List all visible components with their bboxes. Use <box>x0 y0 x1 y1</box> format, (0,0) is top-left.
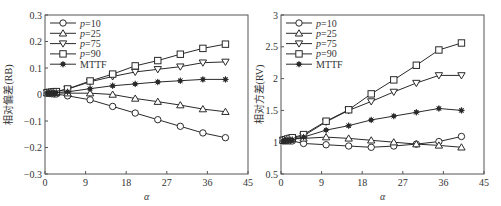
circle-marker <box>323 142 329 148</box>
y-tick-label: −0.1 <box>24 116 42 127</box>
circle-marker <box>60 20 66 26</box>
x-tick-label: 9 <box>319 177 324 188</box>
star-marker <box>222 76 228 82</box>
series-group <box>44 41 230 141</box>
star-marker <box>300 134 306 140</box>
circle-marker <box>458 133 464 139</box>
circle-marker <box>109 103 115 109</box>
circle-marker <box>222 134 228 140</box>
square-marker <box>345 107 351 113</box>
figure: 0918273645α−0.3−0.2−0.100.10.20.3相对偏差(RB… <box>0 0 501 206</box>
square-marker <box>413 62 419 68</box>
plot-frame <box>281 15 484 174</box>
x-tick-label: 27 <box>398 177 408 188</box>
circle-marker <box>132 110 138 116</box>
series-p-90 <box>44 41 229 96</box>
star-marker <box>64 89 70 95</box>
y-axis-label: 相对偏差(RB) <box>2 65 15 125</box>
x-tick-label: 18 <box>121 177 131 188</box>
relative-variance-chart: 0918273645α0.511.522.53相对方差(RV)p=10p=25p… <box>253 10 489 203</box>
x-tick-label: 0 <box>279 177 284 188</box>
y-tick-label: 0.1 <box>30 63 43 74</box>
circle-marker <box>87 97 93 103</box>
square-marker <box>200 45 206 51</box>
triangle-up-marker <box>322 134 329 140</box>
star-marker <box>109 83 115 89</box>
x-tick-label: 36 <box>438 177 448 188</box>
x-tick-label: 45 <box>243 177 253 188</box>
star-marker <box>436 105 442 111</box>
y-tick-label: 2.5 <box>266 41 279 52</box>
x-tick-label: 0 <box>43 177 48 188</box>
legend-label: MTTF <box>316 59 343 70</box>
square-marker <box>87 78 93 84</box>
star-marker <box>296 61 302 67</box>
star-marker <box>289 136 295 142</box>
y-axis: −0.3−0.2−0.100.10.20.3相对偏差(RB) <box>2 10 48 180</box>
x-axis: 0918273645α <box>279 171 490 202</box>
square-marker <box>222 41 228 47</box>
triangle-down-marker <box>413 80 420 86</box>
star-marker <box>391 113 397 119</box>
square-marker <box>436 47 442 53</box>
series-line <box>47 93 225 112</box>
y-tick-label: −0.2 <box>24 142 42 153</box>
square-marker <box>132 63 138 69</box>
square-marker <box>60 51 66 57</box>
y-tick-label: 2 <box>273 73 278 84</box>
star-marker <box>458 107 464 113</box>
star-marker <box>87 85 93 91</box>
star-marker <box>345 122 351 128</box>
star-marker <box>413 109 419 115</box>
star-marker <box>200 76 206 82</box>
star-marker <box>368 117 374 123</box>
series-p-90 <box>280 40 465 144</box>
square-marker <box>177 51 183 57</box>
legend: p=10p=25p=75p=90MTTF <box>50 18 107 70</box>
circle-marker <box>345 143 351 149</box>
star-marker <box>323 127 329 133</box>
relative-bias-chart: 0918273645α−0.3−0.2−0.100.10.20.3相对偏差(RB… <box>2 10 253 203</box>
y-tick-label: 1.5 <box>266 105 279 116</box>
triangle-down-marker <box>390 89 397 95</box>
star-marker <box>60 61 66 67</box>
circle-marker <box>200 130 206 136</box>
y-tick-label: 3 <box>273 10 278 21</box>
x-tick-label: 18 <box>357 177 367 188</box>
x-tick-label: 9 <box>83 177 88 188</box>
star-marker <box>177 78 183 84</box>
square-marker <box>155 57 161 63</box>
legend-label: MTTF <box>80 59 107 70</box>
x-tick-label: 36 <box>202 177 212 188</box>
y-tick-label: 1 <box>273 137 278 148</box>
circle-marker <box>155 116 161 122</box>
y-tick-label: 0.2 <box>30 36 43 47</box>
square-marker <box>391 77 397 83</box>
y-tick-label: 0 <box>37 89 42 100</box>
triangle-down-marker <box>368 99 375 105</box>
y-tick-label: −0.3 <box>24 169 42 180</box>
star-marker <box>132 81 138 87</box>
circle-marker <box>368 144 374 150</box>
series-line <box>283 108 461 140</box>
legend-item: MTTF <box>50 59 107 70</box>
star-marker <box>155 79 161 85</box>
x-axis-label: α <box>380 191 386 202</box>
star-marker <box>53 89 59 95</box>
y-tick-label: 0.5 <box>266 169 279 180</box>
y-axis: 0.511.522.53相对方差(RV) <box>253 10 284 180</box>
x-tick-label: 45 <box>479 177 489 188</box>
square-marker <box>323 118 329 124</box>
square-marker <box>296 51 302 57</box>
x-axis-label: α <box>144 191 150 202</box>
y-axis-label: 相对方差(RV) <box>253 65 266 125</box>
series-group <box>280 40 466 151</box>
legend: p=10p=25p=75p=90MTTF <box>286 18 343 70</box>
circle-marker <box>296 20 302 26</box>
x-tick-label: 27 <box>162 177 172 188</box>
square-marker <box>458 40 464 46</box>
legend-item: MTTF <box>286 59 343 70</box>
square-marker <box>368 91 374 97</box>
y-tick-label: 0.3 <box>30 10 43 21</box>
plot-frame <box>45 15 248 174</box>
